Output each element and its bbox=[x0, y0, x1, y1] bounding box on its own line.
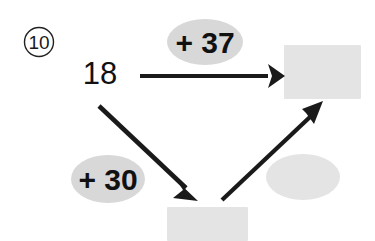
worksheet-canvas: + 37 + 30 10 18 bbox=[0, 0, 375, 241]
question-number-label: 10 bbox=[28, 32, 49, 53]
operation-label-plus-37: + 37 bbox=[175, 26, 234, 59]
start-value-label: 18 bbox=[83, 56, 117, 91]
question-number-marker: 10 bbox=[25, 28, 54, 57]
answer-blank-ellipse-bottom-right[interactable] bbox=[266, 154, 340, 200]
answer-blank-rectangle-bottom-center[interactable] bbox=[167, 207, 248, 241]
answer-blank-rectangle-top-right[interactable] bbox=[284, 45, 361, 99]
number-chain-diagram: + 37 + 30 10 18 bbox=[0, 0, 375, 241]
operation-label-plus-30: + 30 bbox=[78, 163, 137, 196]
arrow-horizontal-right bbox=[140, 64, 285, 88]
